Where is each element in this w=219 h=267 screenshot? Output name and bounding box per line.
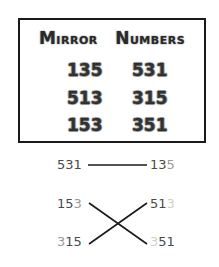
grid-number: 315 bbox=[132, 88, 168, 108]
title-rest-umbers: umbers bbox=[130, 30, 185, 48]
grid-number: 351 bbox=[132, 115, 168, 135]
title-rest-irror: irror bbox=[56, 30, 97, 48]
match-left-531: 531 bbox=[57, 157, 82, 173]
grid-number: 135 bbox=[67, 60, 103, 80]
digit: 1 bbox=[65, 234, 73, 249]
digit: 3 bbox=[65, 157, 73, 172]
digit: 1 bbox=[158, 196, 166, 211]
digit: 5 bbox=[65, 196, 73, 211]
match-right-135: 135 bbox=[150, 157, 175, 173]
digit: 1 bbox=[167, 234, 175, 249]
grid-number: 513 bbox=[67, 88, 103, 108]
match-left-153: 153 bbox=[57, 196, 82, 212]
grid-row: 153 351 bbox=[20, 115, 204, 139]
grid-number: 531 bbox=[132, 60, 168, 80]
diagonal-up-connector bbox=[89, 203, 147, 244]
digit: 3 bbox=[167, 196, 175, 211]
mirror-numbers-card: Mirror Numbers 135 531 513 315 153 351 bbox=[18, 18, 206, 143]
digit: 1 bbox=[74, 157, 82, 172]
match-right-351: 351 bbox=[150, 234, 175, 250]
match-left-315: 315 bbox=[57, 234, 82, 250]
title-cap-m: M bbox=[39, 28, 56, 48]
grid-row: 513 315 bbox=[20, 88, 204, 112]
digit: 3 bbox=[158, 157, 166, 172]
digit: 5 bbox=[158, 234, 166, 249]
diagonal-down-connector bbox=[89, 203, 147, 244]
grid-row: 135 531 bbox=[20, 60, 204, 84]
digit: 3 bbox=[74, 196, 82, 211]
digit: 5 bbox=[167, 157, 175, 172]
grid-number: 153 bbox=[67, 115, 103, 135]
card-title: Mirror Numbers bbox=[20, 28, 204, 48]
digit: 5 bbox=[74, 234, 82, 249]
match-right-513: 513 bbox=[150, 196, 175, 212]
title-cap-n: N bbox=[115, 28, 130, 48]
